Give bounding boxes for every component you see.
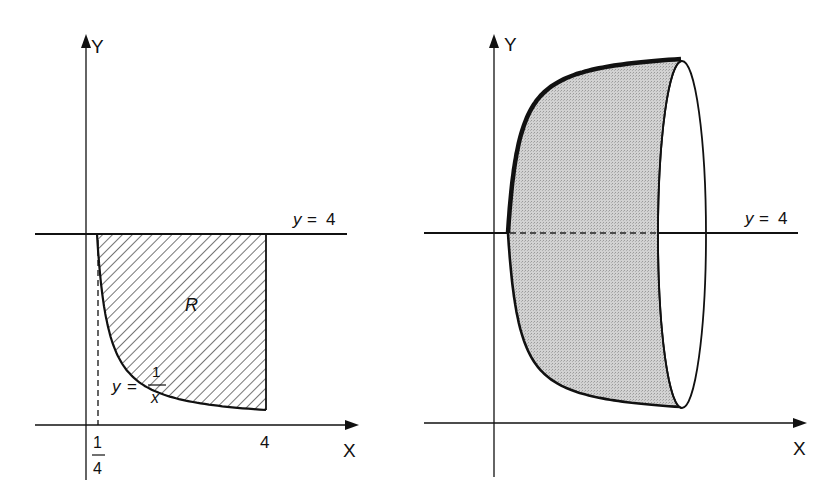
y-axis-right-arrow-icon [489,34,499,48]
diagram-canvas: Y X y = 4 R y = 1 x 1 4 4 [0,0,840,501]
svg-text:=: = [127,377,137,396]
svg-text:1: 1 [152,363,160,380]
y-axis-right-label: Y [504,34,517,55]
svg-text:1: 1 [93,434,102,451]
right-figure: Y X y = 4 [424,34,807,477]
region-label: R [185,295,198,315]
x-axis-arrow-icon [345,420,359,430]
x-axis-label: X [343,440,356,461]
line-label-y4-right: y = 4 [744,209,787,228]
y-axis-label: Y [91,36,104,57]
svg-text:y: y [292,210,303,229]
region-r-fill [97,234,266,410]
tick-label-one-quarter: 1 4 [92,434,105,477]
x-axis-right-label: X [793,438,806,459]
svg-text:4: 4 [778,209,787,228]
tick-label-four: 4 [260,433,269,452]
svg-text:=: = [759,209,769,228]
y-axis-arrow-icon [81,34,91,48]
left-figure: Y X y = 4 R y = 1 x 1 4 4 [35,34,359,480]
svg-text:x: x [150,389,160,406]
svg-text:4: 4 [326,210,335,229]
svg-text:4: 4 [93,460,102,477]
svg-text:y: y [111,377,122,396]
svg-text:y: y [744,209,755,228]
x-axis-right-arrow-icon [793,418,807,428]
svg-text:=: = [307,210,317,229]
line-label-y4: y = 4 [292,210,335,229]
